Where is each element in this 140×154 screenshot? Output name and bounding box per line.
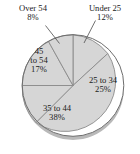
pie-label-45-54-percent: 17% — [19, 65, 59, 74]
pie-label-25-34: 25 to 34 25% — [76, 76, 130, 94]
pie-label-35-44: 35 to 44 38% — [28, 104, 86, 122]
pie-label-under-25-percent: 12% — [74, 13, 136, 22]
pie-label-25-34-percent: 25% — [76, 85, 130, 94]
pie-label-over-54: Over 54 8% — [2, 4, 64, 22]
pie-label-over-54-percent: 8% — [2, 13, 64, 22]
pie-label-45-54: 45 to 54 17% — [19, 47, 59, 74]
pie-label-under-25: Under 25 12% — [74, 4, 136, 22]
pie-chart-figure: Over 54 8% Under 25 12% 45 to 54 17% 25 … — [0, 0, 140, 154]
pie-label-35-44-percent: 38% — [28, 113, 86, 122]
